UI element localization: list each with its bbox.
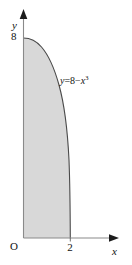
x-axis-arrowhead-icon	[109, 234, 119, 242]
curve-equation-label: y=8−x3	[60, 76, 88, 86]
shaded-region	[24, 38, 71, 238]
y-axis-arrowhead-icon	[20, 9, 28, 19]
equation-exponent: 3	[85, 74, 88, 81]
figure-container: y x 8 2 O y=8−x3	[0, 0, 132, 265]
plot-canvas	[0, 0, 132, 265]
x-axis-label: x	[112, 246, 117, 257]
origin-label: O	[10, 241, 18, 252]
y-axis-tick-label-8: 8	[11, 31, 17, 42]
x-axis-tick-label-2: 2	[64, 242, 76, 253]
